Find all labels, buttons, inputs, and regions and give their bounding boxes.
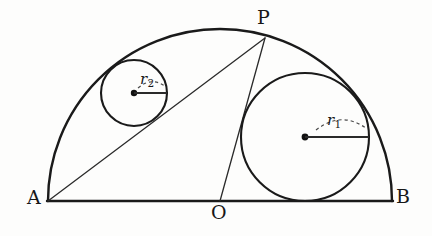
point-label-a: A (27, 188, 41, 207)
radius-label-r1-subscript: 1 (335, 118, 342, 130)
geometry-figure: A B O P r1 r2 (0, 0, 432, 236)
point-label-p: P (257, 8, 270, 27)
radius-label-r1: r1 (327, 113, 341, 129)
radius-label-r2-subscript: 2 (148, 77, 155, 89)
point-label-b: B (396, 187, 410, 206)
radius-label-r1-symbol: r (327, 111, 334, 129)
radius-label-r2: r2 (140, 72, 154, 88)
point-label-o: O (211, 203, 227, 222)
radius-label-r2-symbol: r (140, 70, 147, 88)
segment-ap-chord (48, 38, 265, 201)
circle-r1-radius-arc-annotation (316, 120, 367, 130)
